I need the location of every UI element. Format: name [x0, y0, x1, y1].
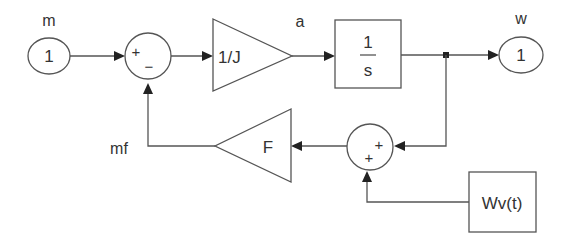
- inport-block[interactable]: 1: [28, 38, 70, 74]
- outport-block[interactable]: 1: [499, 37, 543, 73]
- sum1-plus-sign: +: [132, 43, 141, 60]
- arrowhead-icon: [394, 141, 405, 151]
- signal-label-a: a: [296, 13, 305, 30]
- gain-block-inertia[interactable]: 1/J: [213, 19, 292, 91]
- signal-label-m: m: [42, 12, 55, 29]
- sum1-minus-sign: −: [145, 58, 154, 75]
- arrowhead-icon: [324, 51, 335, 61]
- arrowhead-icon: [202, 51, 213, 61]
- integrator-numerator: 1: [363, 33, 372, 52]
- gain-inertia-label: 1/J: [218, 48, 241, 67]
- integrator-block[interactable]: 1 s: [335, 20, 401, 88]
- disturbance-label: Wv(t): [482, 194, 523, 213]
- sum-block-2[interactable]: + +: [347, 124, 393, 170]
- gain-friction-label: F: [263, 138, 273, 157]
- disturbance-line: [367, 178, 469, 202]
- integrator-denominator: s: [364, 61, 373, 80]
- arrowhead-icon: [362, 171, 372, 182]
- arrowhead-icon: [291, 141, 302, 151]
- signal-label-mf: mf: [110, 140, 128, 157]
- block-diagram: m 1 + − 1/J a 1 s w 1: [0, 0, 567, 245]
- feedback-line-mf: [148, 90, 215, 146]
- sum2-plus-sign-bottom: +: [365, 149, 374, 166]
- gain-block-friction[interactable]: F: [215, 109, 291, 182]
- signal-label-w: w: [514, 10, 527, 27]
- sum2-plus-sign-right: +: [375, 136, 384, 153]
- arrowhead-icon: [143, 83, 153, 94]
- outport-label: 1: [516, 46, 525, 65]
- arrowhead-icon: [114, 51, 125, 61]
- inport-label: 1: [44, 47, 53, 66]
- arrowhead-icon: [488, 50, 499, 60]
- feedback-branch-line: [401, 55, 446, 146]
- sum-block-1[interactable]: + −: [125, 33, 171, 79]
- disturbance-block[interactable]: Wv(t): [469, 172, 536, 232]
